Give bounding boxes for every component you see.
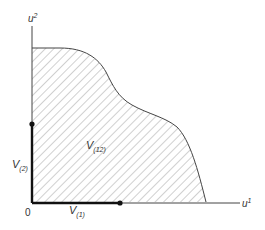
segment-v1-label: V(1) (69, 204, 85, 219)
endpoint-v1 (117, 200, 122, 205)
region-v12 (32, 48, 206, 202)
y-axis-label: u2 (28, 12, 38, 24)
utility-diagram: u2 u1 0 V(12) V(2) V(1) (0, 0, 265, 230)
x-axis-label: u1 (242, 197, 252, 209)
endpoint-v2 (29, 121, 34, 126)
segment-v2-label: V(2) (12, 158, 28, 173)
origin-label: 0 (25, 207, 31, 218)
